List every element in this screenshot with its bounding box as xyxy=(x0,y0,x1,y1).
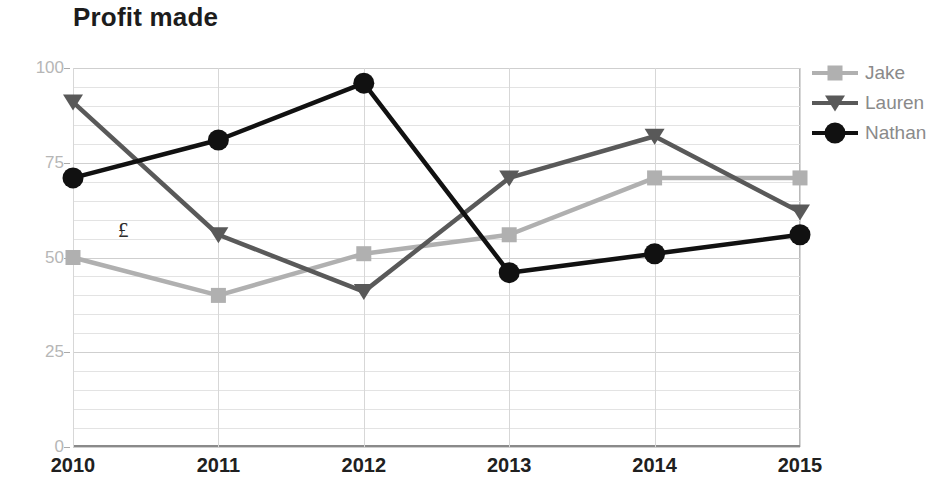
x-axis-tick-label: 2010 xyxy=(51,454,96,477)
y-axis-tick-label: 25 xyxy=(45,342,64,362)
x-axis-tick-label: 2013 xyxy=(487,454,532,477)
x-axis-tick-label: 2011 xyxy=(197,454,240,477)
data-point-marker xyxy=(647,170,662,185)
y-axis-tick-mark xyxy=(64,447,70,448)
data-point-marker xyxy=(211,288,226,303)
y-axis-tick-mark xyxy=(64,163,70,164)
legend-swatch-square-icon xyxy=(812,64,858,82)
data-point-marker xyxy=(356,246,371,261)
chart-title: Profit made xyxy=(73,2,218,33)
legend-marker-shape xyxy=(825,123,846,144)
data-point-marker xyxy=(790,205,810,221)
data-series-layer xyxy=(73,68,800,447)
legend-item-nathan[interactable]: Nathan xyxy=(812,118,942,148)
currency-annotation: £ xyxy=(118,218,129,243)
data-point-marker xyxy=(354,284,374,300)
x-axis-labels: 201020112012201320142015 xyxy=(73,452,800,486)
legend-swatch-circle-icon xyxy=(812,124,858,142)
data-point-marker xyxy=(644,243,665,264)
x-axis-tick-label: 2015 xyxy=(778,454,823,477)
y-axis-labels: 1007550250 xyxy=(12,68,64,447)
y-axis-tick-mark xyxy=(64,68,70,69)
data-point-marker xyxy=(502,227,517,242)
legend-marker-circle-icon xyxy=(822,122,848,144)
legend-marker-square-icon xyxy=(822,62,848,84)
data-point-marker xyxy=(499,262,520,283)
legend-marker-triangle-icon xyxy=(822,92,848,114)
data-point-marker xyxy=(208,130,229,151)
legend-label: Nathan xyxy=(865,122,926,144)
legend-item-lauren[interactable]: Lauren xyxy=(812,88,942,118)
series-line xyxy=(73,102,800,291)
plot-area: £ xyxy=(73,68,800,447)
chart-legend: JakeLaurenNathan xyxy=(812,58,942,148)
series-lauren xyxy=(63,95,810,300)
chart-container: Profit made 1007550250 £ 201020112012201… xyxy=(0,0,944,490)
data-point-marker xyxy=(63,167,84,188)
y-axis-tick-label: 75 xyxy=(45,153,64,173)
data-point-marker xyxy=(66,250,81,265)
legend-marker-shape xyxy=(825,96,845,112)
legend-swatch-triangle-icon xyxy=(812,94,858,112)
gridline-major xyxy=(73,447,800,448)
legend-label: Lauren xyxy=(865,92,924,114)
y-axis-tick-label: 100 xyxy=(36,58,64,78)
data-point-marker xyxy=(793,170,808,185)
y-axis-tick-label: 50 xyxy=(45,248,64,268)
legend-marker-shape xyxy=(828,66,843,81)
data-point-marker xyxy=(353,73,374,94)
legend-item-jake[interactable]: Jake xyxy=(812,58,942,88)
data-point-marker xyxy=(790,224,811,245)
x-axis-tick-label: 2012 xyxy=(342,454,387,477)
x-axis-tick-label: 2014 xyxy=(632,454,677,477)
gridline-vertical xyxy=(800,68,801,447)
legend-label: Jake xyxy=(865,62,905,84)
y-axis-tick-mark xyxy=(64,352,70,353)
